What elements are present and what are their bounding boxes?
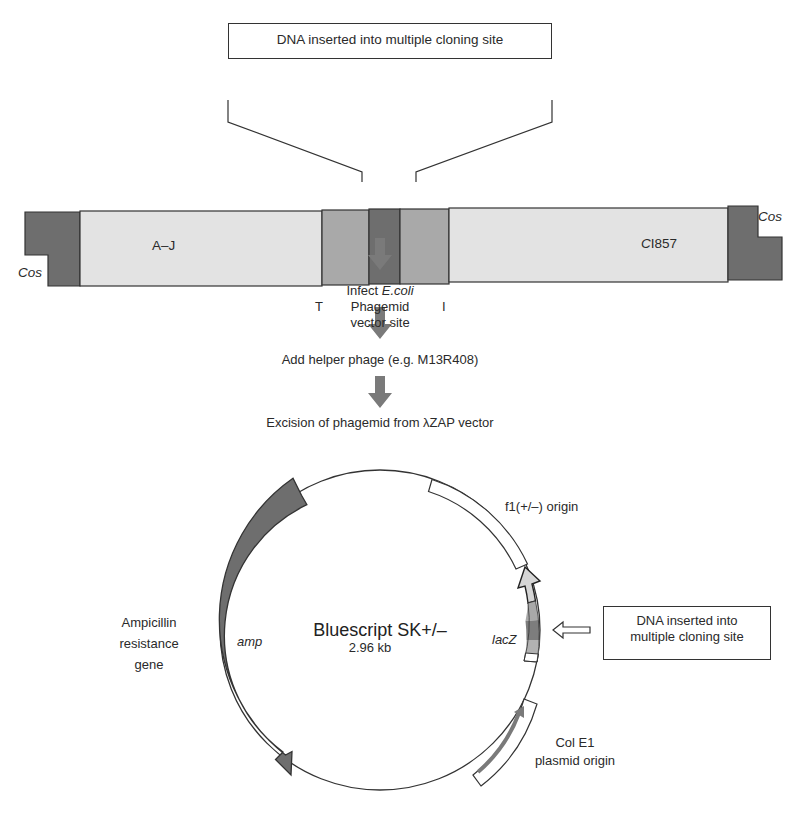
- amp-description-label: Ampicillin resistance gene: [104, 612, 194, 675]
- flow-step-infect-organism: E.coli: [382, 283, 414, 298]
- callout-bracket-right: [416, 100, 552, 182]
- callout-bracket-left: [228, 100, 362, 182]
- amp-description-line2: resistance: [104, 633, 194, 654]
- t-label: T: [315, 299, 323, 315]
- f1-origin-segment: [429, 480, 528, 570]
- ci857-label: CI857: [641, 236, 677, 252]
- cole1-origin-label: Col E1 plasmid origin: [520, 734, 630, 770]
- ci857-label-italic: C: [641, 236, 651, 251]
- t-segment: [322, 210, 369, 285]
- flow-step-helper-phage: Add helper phage (e.g. M13R408): [230, 352, 530, 368]
- phagemid-site-line1: Phagemid: [340, 299, 420, 315]
- i-segment: [400, 209, 449, 284]
- top-callout-box: DNA inserted into multiple cloning site: [228, 23, 552, 59]
- mcs-callout-line1: DNA inserted into: [604, 613, 770, 629]
- lacz-band-1: [526, 601, 539, 621]
- mcs-callout-line2: multiple cloning site: [604, 629, 770, 645]
- aj-label: A–J: [152, 238, 175, 254]
- mcs-pointer-arrow-icon: [553, 622, 590, 638]
- cos-right-label: Cos: [758, 209, 782, 225]
- f1-origin-label: f1(+/–) origin: [505, 499, 578, 515]
- aj-segment: [80, 211, 322, 286]
- lacz-band-4: [524, 653, 539, 662]
- flow-step-infect-text: Infect: [346, 283, 381, 298]
- amp-label: amp: [237, 634, 262, 650]
- ci857-segment: [449, 208, 728, 282]
- mcs-callout-box: DNA inserted into multiple cloning site: [603, 606, 771, 660]
- plasmid-name: Bluescript SK+/–: [290, 620, 470, 640]
- top-callout-text: DNA inserted into multiple cloning site: [277, 32, 504, 47]
- cole1-origin-line2: plasmid origin: [520, 752, 630, 770]
- phagemid-site-line2: vector site: [340, 315, 420, 331]
- lacz-band-2-mcs: [526, 620, 540, 640]
- plasmid-size: 2.96 kb: [310, 640, 430, 656]
- ci857-label-rest: I857: [651, 236, 677, 251]
- i-label: I: [442, 299, 446, 315]
- amp-description-line3: gene: [104, 654, 194, 675]
- phagemid-site-label: Phagemid vector site: [340, 299, 420, 331]
- lacz-label: lacZ: [492, 632, 517, 648]
- cole1-origin-line1: Col E1: [520, 734, 630, 752]
- down-arrow-icon: [368, 376, 392, 408]
- flow-step-excision: Excision of phagemid from λZAP vector: [230, 415, 530, 431]
- amp-description-line1: Ampicillin: [104, 612, 194, 633]
- cos-left-label: Cos: [18, 265, 42, 281]
- flow-step-infect: Infect E.coli: [280, 283, 480, 299]
